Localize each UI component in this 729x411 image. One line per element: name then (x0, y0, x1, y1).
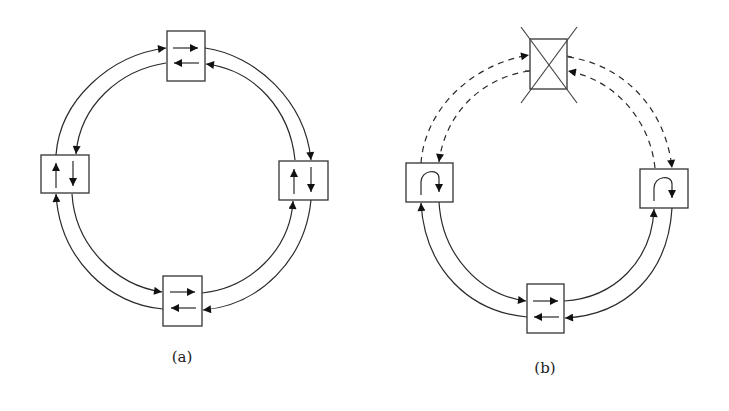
link-inner-bottom-to-right (202, 201, 293, 293)
link-solid-right-to-bottom-outer (565, 208, 672, 318)
link-dashed-top-to-right-outer (568, 57, 672, 168)
node-left-a (41, 155, 89, 193)
link-solid-bottom-to-left-outer (421, 203, 527, 317)
link-solid-bottom-to-right-inner (564, 209, 654, 301)
node-right-b (640, 169, 688, 208)
link-outer-left-to-top (56, 48, 166, 155)
node-bottom-b (527, 284, 564, 333)
link-outer-top-to-right (205, 48, 311, 160)
node-top-b-failed (521, 27, 577, 103)
link-outer-right-to-bottom (203, 200, 311, 310)
link-inner-left-to-bottom (72, 194, 162, 292)
link-dashed-left-to-top-outer (421, 55, 529, 163)
link-solid-left-to-bottom-inner (439, 202, 526, 301)
ring-diagram: (a) (0, 0, 729, 411)
node-right-a (279, 161, 328, 200)
node-bottom-a (163, 276, 202, 326)
panel-a: (a) (41, 31, 328, 366)
link-dashed-top-to-left-inner (439, 71, 529, 162)
panel-label-a: (a) (172, 348, 193, 366)
panel-b: (b) (406, 27, 688, 377)
link-dashed-right-to-top-inner (568, 71, 655, 168)
node-left-b (406, 163, 453, 202)
node-top-a (167, 31, 205, 81)
link-inner-right-to-top (206, 64, 295, 160)
link-inner-top-to-left (76, 63, 166, 154)
panel-label-b: (b) (534, 359, 555, 377)
link-outer-bottom-to-left (56, 194, 163, 309)
